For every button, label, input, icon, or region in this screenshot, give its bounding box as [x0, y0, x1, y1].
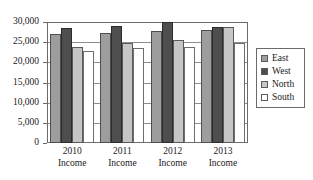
y-tick-label: 25,000: [13, 37, 39, 47]
bar-groups: [47, 22, 248, 143]
legend: EastWestNorthSouth: [256, 48, 305, 108]
bar-south: [184, 47, 195, 143]
legend-swatch-icon: [261, 55, 268, 62]
bar-group: [50, 22, 94, 143]
bar-east: [100, 33, 111, 144]
y-tick-label: 5,000: [18, 118, 39, 128]
y-tick-label: 15,000: [13, 78, 39, 88]
bar-group: [151, 22, 195, 143]
x-tick-year: 2011: [97, 146, 147, 158]
y-tick-label: 10,000: [13, 98, 39, 108]
legend-label: East: [272, 54, 288, 64]
bar-north: [223, 27, 234, 143]
legend-label: North: [272, 80, 294, 90]
bar-east: [151, 31, 162, 143]
y-tick-label: 0: [34, 138, 39, 148]
bar-north: [122, 43, 133, 143]
x-tick-category: Income: [97, 158, 147, 170]
legend-swatch-icon: [261, 68, 268, 75]
bar-west: [111, 26, 122, 143]
bar-south: [83, 51, 94, 143]
bar-north: [173, 40, 184, 143]
legend-swatch-icon: [261, 94, 268, 101]
bar-west: [162, 22, 173, 143]
bar-south: [234, 43, 245, 143]
y-tick-mark: [43, 143, 47, 144]
legend-item-west[interactable]: West: [261, 65, 304, 78]
y-axis: 05,00010,00015,00020,00025,00030,000: [0, 0, 44, 180]
x-tick-label: 2010Income: [47, 146, 97, 169]
x-tick-year: 2010: [47, 146, 97, 158]
x-tick-category: Income: [148, 158, 198, 170]
x-tick-year: 2013: [198, 146, 248, 158]
legend-swatch-icon: [261, 81, 268, 88]
x-tick-label: 2013Income: [198, 146, 248, 169]
x-tick-category: Income: [47, 158, 97, 170]
legend-item-south[interactable]: South: [261, 91, 304, 104]
bar-chart: 05,00010,00015,00020,00025,00030,000 201…: [0, 0, 313, 180]
bar-west: [61, 28, 72, 143]
x-tick-year: 2012: [148, 146, 198, 158]
x-tick-label: 2011Income: [97, 146, 147, 169]
legend-item-north[interactable]: North: [261, 78, 304, 91]
y-tick-label: 20,000: [13, 57, 39, 67]
bar-group: [201, 22, 245, 143]
y-tick-label: 30,000: [13, 17, 39, 27]
legend-item-east[interactable]: East: [261, 52, 304, 65]
bar-north: [72, 47, 83, 143]
legend-label: West: [272, 67, 291, 77]
x-tick-label: 2012Income: [148, 146, 198, 169]
x-axis: 2010Income2011Income2012Income2013Income: [47, 146, 248, 180]
bar-west: [212, 27, 223, 143]
bar-east: [201, 30, 212, 143]
bar-group: [100, 22, 144, 143]
legend-label: South: [272, 93, 294, 103]
bar-east: [50, 34, 61, 143]
bar-south: [133, 48, 144, 143]
x-tick-category: Income: [198, 158, 248, 170]
